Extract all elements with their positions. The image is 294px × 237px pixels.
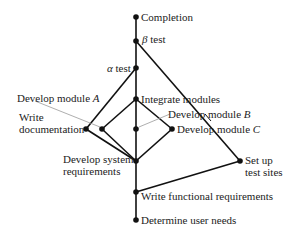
set-up-test-sites-line2: test sites xyxy=(245,166,283,178)
module-b-text: Develop module xyxy=(168,108,244,120)
node-completion xyxy=(133,14,139,20)
module-c-text: Develop module xyxy=(177,123,253,135)
leader-module-b xyxy=(139,114,170,127)
node-beta-test xyxy=(133,38,139,44)
node-develop-module-a xyxy=(99,126,105,132)
label-completion: Completion xyxy=(141,11,193,23)
hasse-diagram: Completion β test α test Integrate modul… xyxy=(0,0,294,237)
label-write-documentation: Write documentation xyxy=(19,111,84,135)
alpha-text: test xyxy=(113,62,131,74)
set-up-test-sites-line1: Set up xyxy=(245,154,283,166)
beta-text: test xyxy=(147,33,165,45)
label-develop-system-requirements: Develop system requirements xyxy=(63,153,134,177)
label-alpha-test: α test xyxy=(107,62,131,74)
label-beta-test: β test xyxy=(142,33,166,45)
module-a-text: Develop module xyxy=(17,92,93,104)
node-develop-system-requirements xyxy=(133,158,139,164)
node-alpha-test xyxy=(133,65,139,71)
node-determine-user-needs xyxy=(133,217,139,223)
edge-write_functional_requirements-to-set_up_test_sites xyxy=(136,161,240,192)
module-c-letter: C xyxy=(253,123,260,135)
label-integrate-modules: Integrate modules xyxy=(141,93,220,105)
develop-system-requirements-line1: Develop system xyxy=(63,153,134,165)
label-develop-module-c: Develop module C xyxy=(177,123,260,135)
label-develop-module-b: Develop module B xyxy=(168,108,251,120)
label-set-up-test-sites: Set up test sites xyxy=(245,154,283,178)
node-develop-module-c xyxy=(169,126,175,132)
node-set-up-test-sites xyxy=(237,158,243,164)
label-write-functional-requirements: Write functional requirements xyxy=(141,190,273,202)
label-determine-user-needs: Determine user needs xyxy=(141,214,236,226)
node-write-functional-requirements xyxy=(133,189,139,195)
label-develop-module-a: Develop module A xyxy=(17,92,100,104)
module-b-letter: B xyxy=(244,108,251,120)
write-documentation-line1: Write xyxy=(19,111,84,123)
develop-system-requirements-line2: requirements xyxy=(63,165,134,177)
module-a-letter: A xyxy=(93,92,100,104)
node-develop-module-b xyxy=(133,126,139,132)
write-documentation-line2: documentation xyxy=(19,123,84,135)
node-integrate-modules xyxy=(133,96,139,102)
edge-develop_system_requirements-to-develop_module_c xyxy=(136,129,172,161)
